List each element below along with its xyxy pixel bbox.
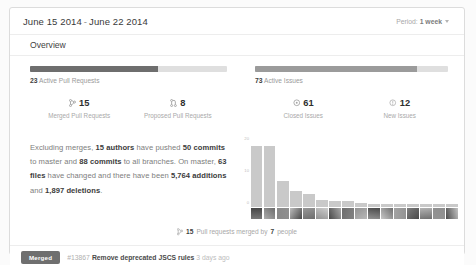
pull-request-list-item[interactable]: Merged #13867Remove deprecated JSCS rule… (10, 245, 464, 265)
git-pull-request-icon (170, 99, 177, 107)
contributor-avatar[interactable] (446, 208, 457, 219)
period-value: 1 week (420, 18, 442, 25)
active-pull-requests-text: Active Pull Requests (39, 77, 99, 84)
active-pull-requests-label: 23 Active Pull Requests (30, 77, 227, 84)
overview-title: Overview (30, 40, 66, 50)
contributor-avatar[interactable] (342, 208, 353, 219)
date-range-start: June 15 2014 (23, 16, 82, 27)
chart-bar-column[interactable] (368, 141, 379, 219)
contributor-avatar[interactable] (290, 208, 301, 219)
chart-y-tick: 10 (244, 169, 249, 173)
contributor-avatar[interactable] (355, 208, 366, 219)
contributor-avatar[interactable] (277, 208, 288, 219)
closed-issues-caption: Closed Issues (255, 112, 352, 119)
period-selector[interactable]: Period: 1 week (392, 16, 453, 27)
pull-request-title[interactable]: Remove deprecated JSCS rules (90, 254, 196, 261)
contributor-avatar[interactable] (264, 208, 275, 219)
chart-y-axis: 01020 (242, 141, 250, 205)
proposed-pull-requests-value-row: 8 (129, 98, 228, 108)
new-issues-value-row: 12 (352, 98, 449, 108)
contributor-avatar[interactable] (368, 208, 379, 219)
proposed-pull-requests-value: 8 (180, 98, 185, 108)
chart-plot-area (251, 141, 458, 219)
chart-bar-column[interactable] (381, 141, 392, 219)
chart-bar-column[interactable] (342, 141, 353, 219)
chart-bar-column[interactable] (394, 141, 405, 219)
merged-by-people-count: 7 (270, 228, 274, 235)
pull-requests-meter-fill (30, 66, 158, 72)
chart-y-tick: 20 (244, 137, 249, 141)
contributor-avatar[interactable] (316, 208, 327, 219)
chart-bar-column[interactable] (303, 141, 314, 219)
pull-request-timestamp: 3 days ago (196, 254, 229, 261)
proposed-pull-requests-stat[interactable]: 8 Proposed Pull Requests (129, 98, 228, 119)
new-issues-stat[interactable]: 12 New Issues (352, 98, 449, 119)
chart-bar-column[interactable] (420, 141, 431, 219)
chart-bar-column[interactable] (251, 141, 262, 219)
chart-bar-column[interactable] (264, 141, 275, 219)
issues-meter-fill (255, 66, 417, 72)
date-range-separator: - (82, 16, 89, 27)
chart-bar (264, 146, 275, 206)
chart-bar (277, 181, 288, 206)
chart-bar (329, 201, 340, 206)
chart-bar (251, 146, 262, 206)
new-issues-value: 12 (400, 98, 410, 108)
chart-bar-column[interactable] (329, 141, 340, 219)
merged-pull-requests-caption: Merged Pull Requests (30, 112, 129, 119)
chart-bar-column[interactable] (433, 141, 444, 219)
header-bar: June 15 2014-June 22 2014 Period: 1 week (10, 8, 464, 34)
chart-bar (381, 204, 392, 207)
closed-issues-value: 61 (303, 98, 313, 108)
chart-bar (303, 194, 314, 207)
chart-bar (342, 201, 353, 206)
issue-opened-icon (389, 99, 397, 107)
proposed-pull-requests-caption: Proposed Pull Requests (129, 112, 228, 119)
chart-bar (316, 200, 327, 206)
chart-bar-column[interactable] (290, 141, 301, 219)
period-label: Period: (396, 18, 418, 25)
pull-request-meta: #13867Remove deprecated JSCS rules3 days… (67, 254, 229, 261)
contributor-avatar[interactable] (420, 208, 431, 219)
chart-bar-column[interactable] (407, 141, 418, 219)
contributor-avatar[interactable] (303, 208, 314, 219)
chart-bar-column[interactable] (355, 141, 366, 219)
contributors-chart: 01020 (232, 141, 464, 219)
contributor-avatar[interactable] (433, 208, 444, 219)
pulse-overview-card: June 15 2014-June 22 2014 Period: 1 week… (9, 7, 465, 255)
contributor-avatar[interactable] (407, 208, 418, 219)
pull-requests-panel: 23 Active Pull Requests 15 Merged Pull R… (10, 66, 237, 119)
chart-bar (446, 204, 457, 207)
merged-pull-requests-stat[interactable]: 15 Merged Pull Requests (30, 98, 129, 119)
contributor-avatar[interactable] (381, 208, 392, 219)
merged-by-summary: 15 Pull requests merged by 7 people (10, 228, 464, 245)
status-badge: Merged (21, 251, 60, 264)
chart-bar (368, 204, 379, 207)
contributor-avatar[interactable] (251, 208, 262, 219)
date-range-end: June 22 2014 (89, 16, 148, 27)
chart-bar (407, 204, 418, 207)
contributor-avatar[interactable] (329, 208, 340, 219)
chart-bar-column[interactable] (316, 141, 327, 219)
contributor-avatar[interactable] (394, 208, 405, 219)
merged-by-count: 15 (186, 228, 193, 235)
active-pull-requests-count: 23 (30, 77, 38, 84)
merged-pull-requests-value-row: 15 (30, 98, 129, 108)
chart-bar (420, 204, 431, 207)
summary-and-chart: Excluding merges, 15 authors have pushed… (10, 141, 464, 219)
issue-closed-icon (293, 99, 301, 107)
issues-substats: 61 Closed Issues 12 New Issues (255, 98, 448, 119)
chart-bar-column[interactable] (446, 141, 457, 219)
pull-request-number[interactable]: #13867 (67, 254, 90, 261)
pull-requests-substats: 15 Merged Pull Requests 8 Proposed Pull … (30, 98, 227, 119)
git-merge-icon (177, 228, 183, 236)
chart-bar-column[interactable] (277, 141, 288, 219)
chart-bar (394, 204, 405, 207)
closed-issues-stat[interactable]: 61 Closed Issues (255, 98, 352, 119)
pull-requests-meter (30, 66, 227, 72)
chart-bar (433, 204, 444, 207)
screenshot-root: June 15 2014-June 22 2014 Period: 1 week… (0, 0, 476, 265)
merged-by-text: Pull requests merged by (196, 228, 267, 235)
issues-panel: 73 Active Issues 61 Closed Issues (237, 66, 464, 119)
issues-meter (255, 66, 448, 72)
